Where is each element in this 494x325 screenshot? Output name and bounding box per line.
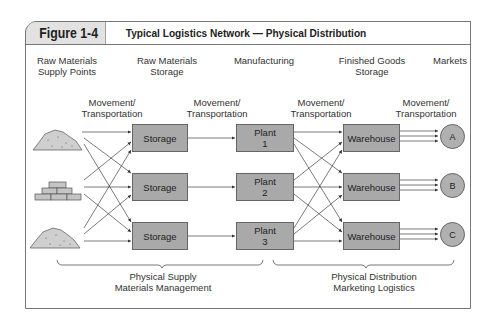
market-a: A <box>440 124 465 149</box>
market-c: C <box>440 222 465 247</box>
warehouse-box-2: Warehouse <box>343 173 400 201</box>
raw-material-pile-icon <box>33 130 82 150</box>
group-label-physical-distribution: Physical Distribution Marketing Logistic… <box>320 271 428 293</box>
storage-box-1: Storage <box>132 124 188 152</box>
plant-label: Plant <box>254 225 276 236</box>
storage-box-2: Storage <box>132 173 188 201</box>
plant-box-3: Plant3 <box>236 222 294 250</box>
brace-physical-distribution <box>273 260 454 268</box>
storage-box-3: Storage <box>132 222 188 250</box>
plant-number: 2 <box>262 187 267 198</box>
bricks-icon <box>35 182 81 200</box>
warehouse-label: Warehouse <box>347 133 395 144</box>
market-label: C <box>449 230 456 240</box>
storage-label: Storage <box>143 133 176 144</box>
group-label-physical-supply: Physical Supply Materials Management <box>110 271 216 293</box>
warehouse-box-3: Warehouse <box>343 222 400 250</box>
group-line: Physical Distribution <box>320 271 428 282</box>
brace-physical-supply <box>57 260 263 268</box>
group-line: Materials Management <box>110 282 216 293</box>
plant-label: Plant <box>254 127 276 138</box>
plant-box-2: Plant2 <box>236 173 294 201</box>
storage-label: Storage <box>143 182 176 193</box>
raw-material-pile-icon <box>30 228 80 248</box>
group-line: Physical Supply <box>110 271 216 282</box>
warehouse-label: Warehouse <box>347 182 395 193</box>
market-label: B <box>449 181 455 191</box>
market-label: A <box>449 132 455 142</box>
plant-number: 3 <box>262 236 267 247</box>
group-line: Marketing Logistics <box>320 282 428 293</box>
market-b: B <box>440 173 465 198</box>
warehouse-label: Warehouse <box>347 231 395 242</box>
warehouse-box-1: Warehouse <box>343 124 400 152</box>
storage-label: Storage <box>143 231 176 242</box>
plant-box-1: Plant1 <box>236 124 294 152</box>
plant-label: Plant <box>254 176 276 187</box>
plant-number: 1 <box>262 138 267 149</box>
